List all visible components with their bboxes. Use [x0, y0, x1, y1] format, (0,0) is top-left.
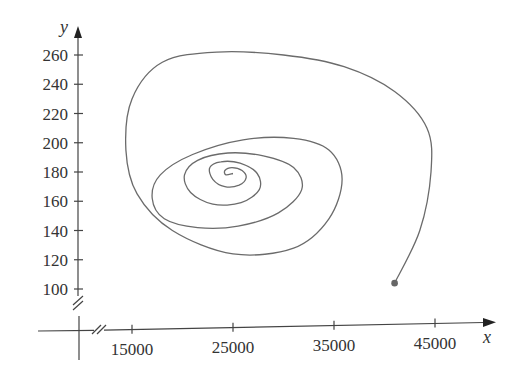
y-tick-label: 240: [43, 75, 69, 94]
x-axis-arrow-icon: [483, 318, 496, 327]
y-axis: y 100120140160180200220240260: [43, 17, 84, 360]
x-axis-label: x: [482, 327, 491, 347]
y-tick-label: 260: [43, 46, 69, 65]
trajectory-curve: [126, 52, 432, 283]
y-tick-label: 140: [43, 222, 69, 241]
y-tick-label: 200: [43, 134, 69, 153]
phase-plane-chart: y 100120140160180200220240260 x 15000250…: [0, 0, 527, 382]
x-axis: x 15000250003500045000: [38, 318, 496, 359]
y-tick-label: 100: [43, 280, 69, 299]
x-tick-label: 45000: [414, 334, 457, 353]
y-tick-label: 120: [43, 251, 69, 270]
x-axis-line-right: [104, 323, 484, 331]
x-tick-label: 25000: [212, 338, 255, 357]
y-axis-break-icon: [73, 296, 83, 310]
y-axis-arrow-icon: [74, 26, 82, 38]
y-ticks: 100120140160180200220240260: [43, 46, 84, 299]
x-tick-label: 35000: [313, 336, 356, 355]
x-axis-break-icon: [92, 325, 106, 334]
x-tick-label: 15000: [111, 340, 154, 359]
y-axis-label: y: [58, 17, 68, 37]
x-axis-line-left: [38, 330, 94, 331]
y-tick-label: 180: [43, 163, 69, 182]
start-point-marker: [391, 280, 398, 287]
y-tick-label: 220: [43, 105, 69, 124]
y-tick-label: 160: [43, 192, 69, 211]
